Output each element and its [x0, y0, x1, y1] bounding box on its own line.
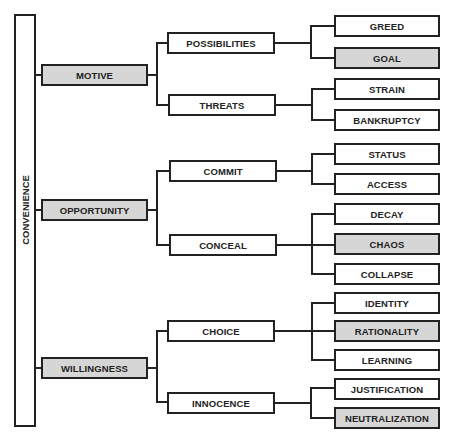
- connector: [276, 104, 313, 106]
- leaf-rationality: RATIONALITY: [334, 320, 440, 342]
- node-commit: COMMIT: [169, 160, 277, 182]
- leaf-bankruptcy: BANKRUPTCY: [334, 109, 440, 131]
- node-choice: CHOICE: [167, 320, 275, 342]
- connector: [311, 88, 313, 121]
- leaf-identity: IDENTITY: [334, 292, 440, 314]
- node-motive: MOTIVE: [41, 64, 148, 86]
- connector: [311, 213, 335, 215]
- connector: [156, 244, 170, 246]
- connector: [311, 183, 335, 185]
- connector: [311, 153, 335, 155]
- leaf-collapse: COLLAPSE: [334, 263, 440, 285]
- connector: [311, 213, 313, 275]
- connector: [311, 153, 313, 185]
- connector: [275, 402, 312, 404]
- leaf-status: STATUS: [334, 143, 440, 165]
- connector: [311, 359, 335, 361]
- connector: [156, 330, 158, 403]
- connector: [311, 302, 335, 304]
- connector: [156, 170, 170, 172]
- connector: [156, 170, 158, 246]
- node-conceal: CONCEAL: [169, 234, 277, 256]
- connector: [275, 42, 312, 44]
- connector: [310, 25, 335, 27]
- connector: [310, 387, 312, 419]
- node-innocence: INNOCENCE: [167, 392, 275, 414]
- connector: [310, 417, 335, 419]
- node-willingness: WILLINGNESS: [41, 357, 148, 379]
- leaf-justification: JUSTIFICATION: [334, 378, 440, 400]
- connector: [311, 302, 313, 361]
- leaf-chaos: CHAOS: [334, 233, 440, 255]
- leaf-learning: LEARNING: [334, 349, 440, 371]
- node-opportunity: OPPORTUNITY: [41, 199, 148, 221]
- connector: [277, 170, 313, 172]
- connector: [310, 57, 335, 59]
- connector: [275, 330, 335, 332]
- node-possibilities: POSSIBILITIES: [167, 32, 275, 54]
- connector: [277, 244, 335, 246]
- leaf-strain: STRAIN: [334, 78, 440, 100]
- connector: [311, 88, 335, 90]
- connector: [310, 25, 312, 59]
- leaf-neutralization: NEUTRALIZATION: [334, 407, 440, 429]
- leaf-goal: GOAL: [334, 47, 440, 69]
- connector: [156, 42, 158, 106]
- node-threats: THREATS: [168, 94, 276, 116]
- connector: [310, 387, 335, 389]
- leaf-greed: GREED: [334, 15, 440, 37]
- leaf-decay: DECAY: [334, 203, 440, 225]
- connector: [311, 273, 335, 275]
- connector: [156, 104, 168, 106]
- root-label: CONVENIENCE: [20, 175, 31, 245]
- leaf-access: ACCESS: [334, 173, 440, 195]
- connector: [311, 119, 335, 121]
